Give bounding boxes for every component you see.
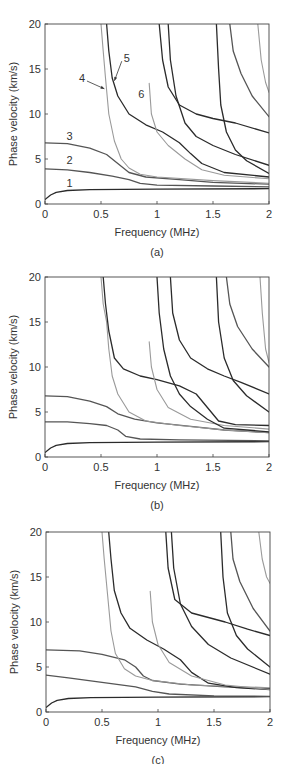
chart-c: 00.511.5205101520Frequency (MHz)Phase ve…: [0, 0, 289, 764]
mode-curve-10: [231, 532, 270, 631]
y-tick-label: 20: [30, 526, 42, 538]
panel-c: 00.511.5205101520Frequency (MHz)Phase ve…: [0, 0, 289, 255]
mode-curve-1: [46, 697, 270, 708]
mode-curve-3: [46, 650, 270, 689]
y-axis-label: Phase velocity (km/s): [8, 570, 20, 675]
plot-frame: [46, 532, 270, 712]
x-tick-label: 0.5: [94, 716, 109, 728]
x-tick-label: 1: [155, 716, 161, 728]
x-tick-label: 0: [43, 716, 49, 728]
panel-caption: (c): [152, 754, 165, 764]
curves: [46, 532, 270, 708]
mode-curve-8: [171, 532, 270, 674]
y-tick-label: 0: [36, 706, 42, 718]
mode-curve-9: [221, 532, 270, 667]
mode-curve-7: [166, 532, 270, 636]
y-tick-label: 5: [36, 661, 42, 673]
y-tick-label: 15: [30, 571, 42, 583]
x-axis-label: Frequency (MHz): [116, 734, 201, 746]
mode-curve-11: [259, 532, 270, 583]
y-tick-label: 10: [30, 616, 42, 628]
x-tick-label: 2: [267, 716, 273, 728]
x-tick-label: 1.5: [206, 716, 221, 728]
